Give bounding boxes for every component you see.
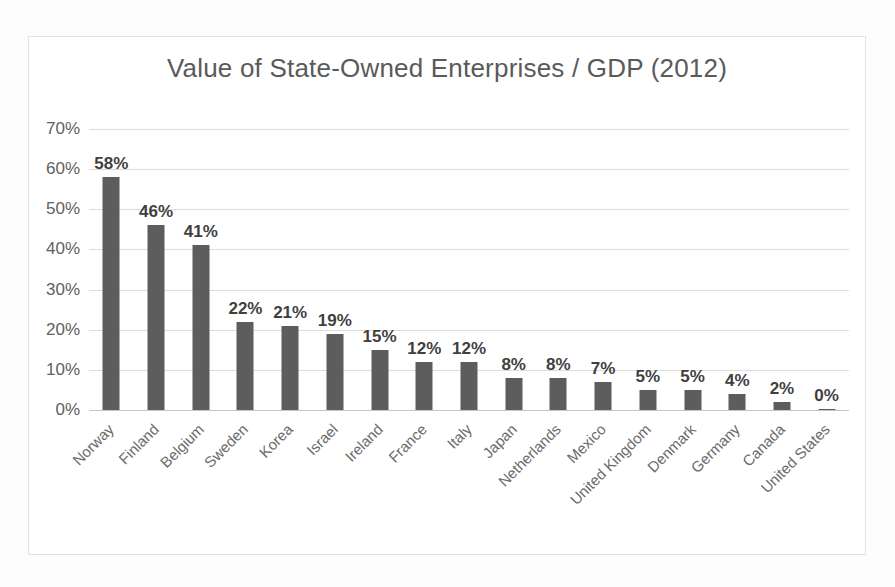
y-axis-tick-label: 40% [46,239,80,259]
x-axis-category-label: Finland [115,420,162,467]
x-axis-category-label: Japan [479,420,520,461]
bar-slot[interactable]: 5%United Kingdom [625,129,670,410]
x-axis-category-label: France [385,420,430,465]
bar-slot[interactable]: 41%Belgium [178,129,223,410]
bar[interactable] [282,326,299,410]
bar-slot[interactable]: 8%Japan [491,129,536,410]
bar-slot[interactable]: 8%Netherlands [536,129,581,410]
bar-value-label: 2% [770,379,795,399]
bar-value-label: 4% [725,371,750,391]
bar-value-label: 5% [636,367,661,387]
bar-slot[interactable]: 58%Norway [89,129,134,410]
bar-value-label: 12% [407,339,441,359]
chart-container: Value of State-Owned Enterprises / GDP (… [28,36,866,555]
bar-slot[interactable]: 2%Canada [760,129,805,410]
x-axis-category-label: Sweden [201,420,251,470]
bar-value-label: 8% [501,355,526,375]
bar-value-label: 41% [184,222,218,242]
bar-value-label: 22% [228,299,262,319]
y-axis-tick-label: 60% [46,159,80,179]
bar-slot[interactable]: 21%Korea [268,129,313,410]
y-axis-tick-label: 70% [46,119,80,139]
gridline [89,410,849,411]
bar[interactable] [103,177,120,410]
bar-value-label: 0% [814,386,839,406]
y-axis-tick-label: 30% [46,280,80,300]
bar-value-label: 5% [680,367,705,387]
bar[interactable] [505,378,522,410]
bar[interactable] [773,402,790,410]
bar-value-label: 19% [318,311,352,331]
bar-value-label: 7% [591,359,616,379]
bar-slot[interactable]: 4%Germany [715,129,760,410]
bar-slot[interactable]: 46%Finland [134,129,179,410]
bar[interactable] [595,382,612,410]
x-axis-category-label: Norway [69,420,117,468]
y-axis-tick-label: 10% [46,360,80,380]
bar[interactable] [148,225,165,410]
y-axis-tick-label: 20% [46,320,80,340]
bar[interactable] [326,334,343,410]
y-axis-tick-label: 50% [46,199,80,219]
bar[interactable] [639,390,656,410]
bar[interactable] [460,362,477,410]
x-axis-category-label: United Kingdom [566,420,653,507]
bar-slot[interactable]: 12%Italy [447,129,492,410]
bar[interactable] [684,390,701,410]
bar-value-label: 15% [363,327,397,347]
x-axis-category-label: Korea [256,420,296,460]
bar[interactable] [237,322,254,410]
bar-value-label: 46% [139,202,173,222]
bar-value-label: 21% [273,303,307,323]
x-axis-category-label: Belgium [156,420,206,470]
bar-slot[interactable]: 19%Israel [313,129,358,410]
chart-title: Value of State-Owned Enterprises / GDP (… [29,53,865,84]
bar-slot[interactable]: 15%Ireland [357,129,402,410]
bar-slot[interactable]: 7%Mexico [581,129,626,410]
bar[interactable] [416,362,433,410]
bar-value-label: 8% [546,355,571,375]
bar-slot[interactable]: 12%France [402,129,447,410]
x-axis-category-label: Ireland [341,420,385,464]
bar[interactable] [371,350,388,410]
bar-slot[interactable]: 5%Denmark [670,129,715,410]
bar-slot[interactable]: 0%United States [804,129,849,410]
bar-value-label: 12% [452,339,486,359]
bar-slot[interactable]: 22%Sweden [223,129,268,410]
bar[interactable] [550,378,567,410]
x-axis-category-label: Italy [444,420,475,451]
y-axis-tick-label: 0% [55,400,80,420]
bar-value-label: 58% [94,154,128,174]
bar[interactable] [818,409,835,411]
bar[interactable] [729,394,746,410]
x-axis-category-label: Israel [303,420,341,458]
plot-area: 70%60%50%40%30%20%10%0% 58%Norway46%Finl… [89,129,849,410]
bar[interactable] [192,245,209,410]
